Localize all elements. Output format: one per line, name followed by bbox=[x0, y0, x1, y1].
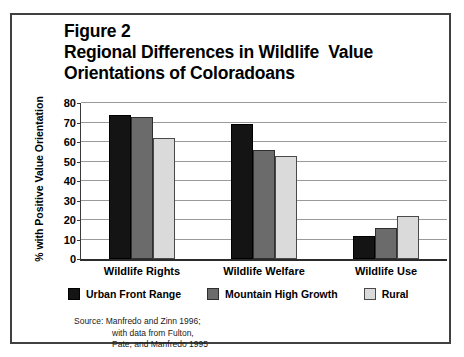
title-line-3: Orientations of Coloradoans bbox=[64, 63, 444, 84]
y-tick-label: 20 bbox=[64, 214, 76, 226]
bar[interactable] bbox=[253, 150, 275, 259]
bar-group: Wildlife Rights bbox=[81, 103, 203, 259]
bar-group: Wildlife Use bbox=[325, 103, 447, 259]
legend-label: Mountain High Growth bbox=[225, 288, 338, 300]
x-axis-category-label: Wildlife Use bbox=[355, 265, 417, 277]
legend-swatch bbox=[68, 288, 80, 300]
y-tick-label: 70 bbox=[64, 117, 76, 129]
bar[interactable] bbox=[353, 236, 375, 259]
legend-label: Urban Front Range bbox=[86, 288, 181, 300]
legend-swatch bbox=[364, 288, 376, 300]
legend-label: Rural bbox=[382, 288, 409, 300]
source-line-3: Pate, and Manfredo 1995 bbox=[74, 339, 208, 351]
bar[interactable] bbox=[131, 117, 153, 259]
x-axis-category-label: Wildlife Rights bbox=[104, 265, 180, 277]
chart-plot-wrapper: 01020304050607080Wildlife RightsWildlife… bbox=[80, 103, 447, 261]
y-axis-title-text: % with Positive Value Orientation bbox=[33, 96, 45, 262]
bar[interactable] bbox=[109, 115, 131, 259]
chart-plot-area: 01020304050607080Wildlife RightsWildlife… bbox=[80, 103, 447, 261]
source-line-1: Source: Manfredo and Zinn 1996; bbox=[74, 316, 208, 328]
legend-swatch bbox=[207, 288, 219, 300]
y-tick-mark bbox=[77, 259, 81, 260]
y-tick-label: 40 bbox=[64, 175, 76, 187]
figure-frame: Figure 2 Regional Differences in Wildlif… bbox=[10, 13, 451, 344]
bar[interactable] bbox=[375, 228, 397, 259]
y-tick-label: 50 bbox=[64, 156, 76, 168]
source-note: Source: Manfredo and Zinn 1996; with dat… bbox=[74, 316, 208, 351]
bar[interactable] bbox=[275, 156, 297, 259]
y-tick-label: 0 bbox=[70, 253, 76, 265]
y-axis-title: % with Positive Value Orientation bbox=[31, 93, 47, 265]
title-line-2: Regional Differences in Wildlife Value bbox=[64, 42, 444, 63]
bar[interactable] bbox=[153, 138, 175, 259]
y-tick-label: 30 bbox=[64, 195, 76, 207]
bar[interactable] bbox=[231, 124, 253, 259]
y-tick-label: 60 bbox=[64, 136, 76, 148]
title-line-1: Figure 2 bbox=[64, 21, 444, 42]
bar-group: Wildlife Welfare bbox=[203, 103, 325, 259]
legend-item[interactable]: Urban Front Range bbox=[68, 288, 181, 300]
chart-legend: Urban Front RangeMountain High GrowthRur… bbox=[68, 288, 448, 300]
legend-item[interactable]: Mountain High Growth bbox=[207, 288, 338, 300]
x-axis-category-label: Wildlife Welfare bbox=[223, 265, 305, 277]
y-tick-label: 10 bbox=[64, 234, 76, 246]
y-tick-label: 80 bbox=[64, 97, 76, 109]
figure-title: Figure 2 Regional Differences in Wildlif… bbox=[64, 21, 444, 84]
source-line-2: with data from Fulton, bbox=[74, 328, 208, 340]
bar[interactable] bbox=[397, 216, 419, 259]
legend-item[interactable]: Rural bbox=[364, 288, 409, 300]
